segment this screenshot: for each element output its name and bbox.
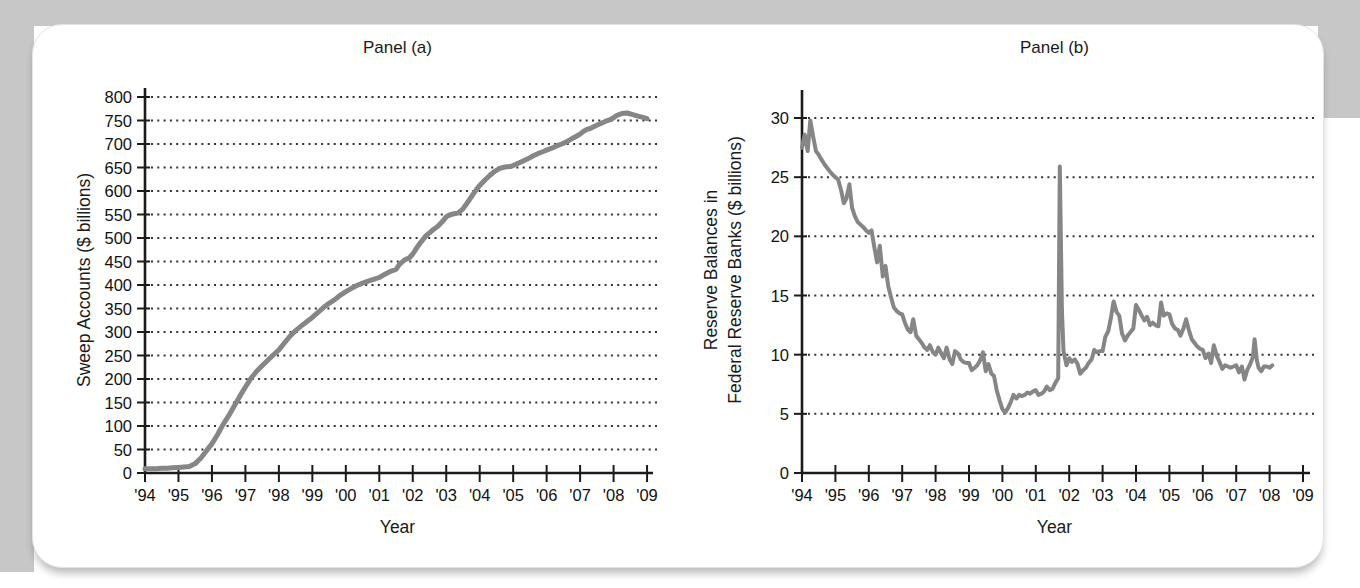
x-tick-label: '06 xyxy=(536,486,558,504)
background-left-band xyxy=(0,0,34,572)
x-tick-label: '09 xyxy=(636,486,658,504)
y-tick-label: 500 xyxy=(104,229,132,247)
panel-b-title: Panel (b) xyxy=(802,38,1307,58)
x-tick-label: '03 xyxy=(1092,486,1114,504)
panel-b-y-axis-title-line1: Reserve Balances in xyxy=(699,90,723,450)
y-tick-label: 300 xyxy=(104,323,132,341)
x-tick-label: '04 xyxy=(1125,486,1147,504)
y-tick-label: 25 xyxy=(771,168,789,186)
x-tick-label: '00 xyxy=(335,486,357,504)
x-tick-label: '01 xyxy=(1025,486,1047,504)
x-tick-label: '08 xyxy=(1259,486,1281,504)
x-tick-label: '97 xyxy=(891,486,913,504)
x-tick-label: '02 xyxy=(1058,486,1080,504)
series-line xyxy=(145,113,647,469)
x-tick-label: '94 xyxy=(791,486,813,504)
x-tick-label: '03 xyxy=(435,486,457,504)
series-line xyxy=(802,120,1272,412)
y-tick-label: 800 xyxy=(104,88,132,106)
x-tick-label: '04 xyxy=(469,486,491,504)
y-tick-label: 200 xyxy=(104,370,132,388)
reserve-balances-chart: 051015202530'94'95'96'97'98'99'00'01'02'… xyxy=(740,80,1330,520)
x-tick-label: '97 xyxy=(235,486,257,504)
y-tick-label: 450 xyxy=(104,253,132,271)
x-tick-label: '05 xyxy=(502,486,524,504)
x-tick-label: '01 xyxy=(369,486,391,504)
figure-page: Panel (a) Panel (b) Sweep Accounts ($ bi… xyxy=(0,0,1360,588)
y-tick-label: 250 xyxy=(104,347,132,365)
y-tick-label: 50 xyxy=(114,441,132,459)
x-tick-label: '09 xyxy=(1292,486,1314,504)
x-tick-label: '07 xyxy=(569,486,591,504)
panel-a-y-axis-title: Sweep Accounts ($ billions) xyxy=(73,130,95,430)
x-tick-label: '99 xyxy=(958,486,980,504)
x-tick-label: '98 xyxy=(268,486,290,504)
x-tick-label: '94 xyxy=(134,486,156,504)
y-tick-label: 5 xyxy=(780,405,789,423)
y-tick-label: 150 xyxy=(104,394,132,412)
y-tick-label: 10 xyxy=(771,346,789,364)
y-tick-label: 0 xyxy=(780,464,789,482)
x-tick-label: '05 xyxy=(1159,486,1181,504)
panel-b-x-axis-title: Year xyxy=(802,517,1307,538)
x-tick-label: '06 xyxy=(1192,486,1214,504)
y-tick-label: 750 xyxy=(104,112,132,130)
y-tick-label: 600 xyxy=(104,182,132,200)
x-tick-label: '07 xyxy=(1225,486,1247,504)
y-tick-label: 400 xyxy=(104,276,132,294)
y-tick-label: 30 xyxy=(771,109,789,127)
y-tick-label: 100 xyxy=(104,417,132,435)
y-tick-label: 0 xyxy=(123,464,132,482)
y-tick-label: 20 xyxy=(771,227,789,245)
y-tick-label: 650 xyxy=(104,159,132,177)
y-tick-label: 550 xyxy=(104,206,132,224)
x-tick-label: '99 xyxy=(302,486,324,504)
x-tick-label: '96 xyxy=(201,486,223,504)
x-tick-label: '00 xyxy=(992,486,1014,504)
sweep-accounts-chart: 0501001502002503003504004505005506006507… xyxy=(100,80,670,520)
y-tick-label: 350 xyxy=(104,300,132,318)
background-top-band xyxy=(0,0,1360,26)
x-tick-label: '96 xyxy=(858,486,880,504)
y-tick-label: 700 xyxy=(104,135,132,153)
panel-a-x-axis-title: Year xyxy=(145,517,650,538)
x-tick-label: '08 xyxy=(603,486,625,504)
x-tick-label: '95 xyxy=(168,486,190,504)
x-tick-label: '95 xyxy=(825,486,847,504)
x-tick-label: '98 xyxy=(925,486,947,504)
x-tick-label: '02 xyxy=(402,486,424,504)
y-tick-label: 15 xyxy=(771,287,789,305)
panel-a-title: Panel (a) xyxy=(145,38,650,58)
